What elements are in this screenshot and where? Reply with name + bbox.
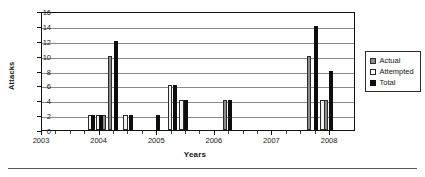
x-tick-mark [156,131,157,135]
x-tick-mark [271,131,272,135]
bar-attempted [320,100,324,130]
x-tick-label: 2004 [79,136,119,145]
x-axis-title: Years [30,150,360,159]
bar-total [173,85,177,130]
y-tick-mark [37,27,41,28]
bar-total [184,100,188,130]
chart-legend: Actual Attempted Total [365,51,421,92]
x-tick-label: 2008 [309,136,349,145]
y-tick-mark [37,86,41,87]
x-minor-tick-mark [84,131,85,134]
bar-total [129,115,133,130]
bar-total [99,115,103,130]
gridline [42,43,354,44]
x-minor-tick-mark [70,131,71,134]
bar-actual [223,100,227,130]
bar-total [114,41,118,130]
x-tick-label: 2005 [136,136,176,145]
y-tick-label: 14 [31,22,51,31]
legend-item-actual: Actual [370,55,417,66]
x-tick-label: 2003 [21,136,61,145]
legend-swatch-icon-actual [370,58,376,64]
legend-swatch-icon-attempted [370,69,376,75]
x-minor-tick-mark [228,131,229,134]
bar-actual [108,56,112,130]
bar-total [91,115,95,130]
x-minor-tick-mark [257,131,258,134]
y-axis-title: Attacks [4,36,18,116]
x-minor-tick-mark [127,131,128,134]
bar-total [228,100,232,130]
x-minor-tick-mark [113,131,114,134]
x-minor-tick-mark [171,131,172,134]
legend-item-total: Total [370,77,417,88]
y-tick-mark [37,12,41,13]
bar-total [314,26,318,130]
x-tick-mark [214,131,215,135]
x-minor-tick-mark [199,131,200,134]
x-minor-tick-mark [142,131,143,134]
bar-attempted [179,100,183,130]
y-tick-label: 10 [31,52,51,61]
x-tick-mark [329,131,330,135]
gridline [42,28,354,29]
chart-figure: Attacks 0246810121416 200320042005200620… [0,0,425,177]
y-tick-label: 8 [31,67,51,76]
y-tick-mark [37,42,41,43]
x-minor-tick-mark [286,131,287,134]
bar-actual [307,56,311,130]
x-minor-tick-mark [315,131,316,134]
y-tick-mark [37,72,41,73]
legend-label-actual: Actual [380,56,401,65]
y-tick-label: 6 [31,82,51,91]
x-minor-tick-mark [300,131,301,134]
x-tick-mark [99,131,100,135]
x-minor-tick-mark [243,131,244,134]
x-tick-label: 2007 [251,136,291,145]
x-tick-mark [41,131,42,135]
legend-item-attempted: Attempted [370,66,417,77]
bar-attempted [123,115,127,130]
plot-area [41,12,355,131]
y-tick-label: 12 [31,37,51,46]
bar-total [156,115,160,130]
y-tick-mark [37,101,41,102]
y-tick-label: 2 [31,112,51,121]
y-tick-mark [37,116,41,117]
x-minor-tick-mark [185,131,186,134]
bar-attempted [168,85,172,130]
x-minor-tick-mark [55,131,56,134]
legend-swatch-icon-total [370,80,376,86]
bar-total [329,71,333,131]
legend-label-total: Total [380,78,396,87]
y-tick-mark [37,57,41,58]
y-tick-label: 16 [31,8,51,17]
footer-divider [8,168,417,169]
x-tick-label: 2006 [194,136,234,145]
y-tick-label: 4 [31,97,51,106]
legend-label-attempted: Attempted [380,67,414,76]
